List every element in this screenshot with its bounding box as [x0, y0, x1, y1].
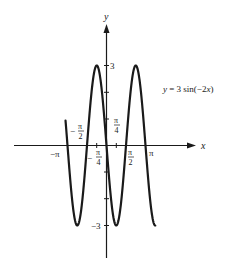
x-axis-arrow-icon	[187, 143, 196, 149]
x-tick-label-neg-pi-over-2: − π 2	[70, 122, 84, 141]
svg-text:π: π	[96, 148, 100, 157]
svg-text:4: 4	[115, 126, 119, 135]
svg-text:2: 2	[129, 158, 133, 167]
x-tick-label-neg-pi-over-4: − π 4	[87, 148, 102, 167]
equation-label: y = 3 sin(−2x)	[162, 84, 213, 94]
x-tick-label-pi-over-4: π 4	[114, 116, 120, 135]
svg-text:4: 4	[97, 158, 101, 167]
x-tick-label-neg-pi: −π	[50, 149, 60, 159]
svg-text:−: −	[87, 153, 92, 163]
y-axis-label: y	[103, 11, 109, 22]
y-tick-label-3: 3	[110, 61, 115, 71]
x-axis-label: x	[200, 140, 206, 151]
svg-text:π: π	[114, 116, 118, 125]
svg-text:π: π	[78, 122, 82, 131]
sine-graph: x y 3 −3 −π π − π 2 π 4 − π 4	[0, 0, 231, 273]
y-tick-label-neg3: −3	[91, 221, 101, 231]
svg-text:−: −	[70, 126, 75, 136]
y-axis-arrow-icon	[104, 24, 110, 33]
x-tick-label-pi: π	[149, 148, 154, 158]
x-tick-label-pi-over-2: π 2	[128, 148, 134, 167]
svg-text:2: 2	[79, 132, 83, 141]
svg-text:π: π	[128, 148, 132, 157]
